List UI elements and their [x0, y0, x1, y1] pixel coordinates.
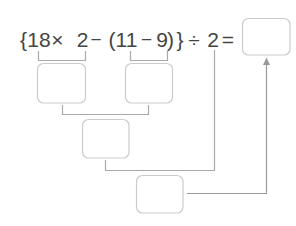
close-brace: } — [176, 28, 183, 51]
final-answer-box[interactable] — [243, 19, 291, 56]
answer-box-11minus9[interactable] — [126, 64, 173, 104]
bracket-18x2 — [39, 51, 86, 61]
minus-sign-inner: − — [141, 29, 152, 50]
divide-sign: ÷ — [188, 28, 200, 51]
order-of-operations-diagram: { 18 × 2 − ( 11 − 9 ) } ÷ 2 = — [0, 0, 296, 226]
arrow-to-answer-line — [187, 64, 267, 194]
close-paren: ) — [167, 28, 174, 51]
connector-subtract — [63, 105, 149, 115]
number-18: 18 — [27, 28, 50, 51]
answer-box-divide[interactable] — [137, 176, 184, 214]
expression: { 18 × 2 − ( 11 − 9 ) } ÷ 2 = — [20, 28, 234, 51]
bracket-11minus9 — [131, 51, 168, 61]
answer-box-subtract[interactable] — [83, 120, 130, 159]
arrow-up-icon — [263, 58, 270, 66]
answer-box-18x2[interactable] — [38, 64, 86, 104]
number-2-first: 2 — [77, 28, 89, 51]
open-brace: { — [20, 28, 27, 51]
minus-sign-outer: − — [90, 29, 101, 50]
number-2-divisor: 2 — [207, 28, 219, 51]
multiply-sign: × — [51, 28, 63, 51]
number-11: 11 — [116, 28, 138, 51]
open-paren: ( — [109, 28, 116, 51]
equals-sign: = — [222, 28, 234, 51]
